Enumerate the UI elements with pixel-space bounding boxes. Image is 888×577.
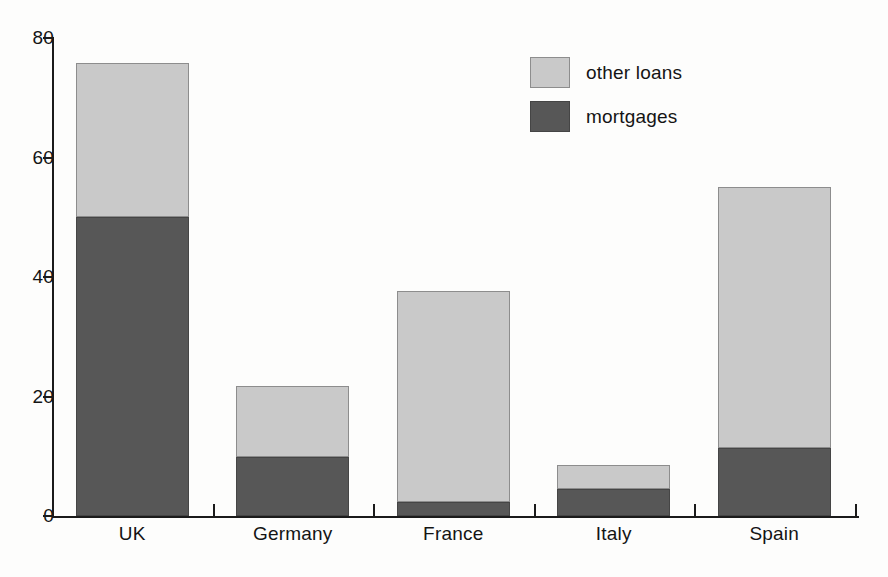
x-axis-label-germany: Germany <box>213 524 374 545</box>
legend-swatch-mortgages-icon <box>530 101 570 132</box>
bar-segment-mortgages[interactable] <box>397 502 510 516</box>
bar-spain[interactable] <box>718 187 831 516</box>
bar-segment-other-loans[interactable] <box>76 63 189 217</box>
bar-uk[interactable] <box>76 63 189 516</box>
bar-segment-mortgages[interactable] <box>76 217 189 516</box>
legend-entry-other-loans[interactable]: other loans <box>530 56 682 88</box>
bar-segment-other-loans[interactable] <box>557 465 670 489</box>
bar-italy[interactable] <box>557 465 670 516</box>
chart-legend: other loans mortgages <box>530 56 682 144</box>
x-axis-label-spain: Spain <box>694 524 855 545</box>
x-axis-label-uk: UK <box>52 524 213 545</box>
plot-area: UKGermanyFranceItalySpain <box>0 0 888 577</box>
bar-segment-mortgages[interactable] <box>557 489 670 516</box>
chart-figure: 020406080 UKGermanyFranceItalySpain othe… <box>0 0 888 577</box>
bar-segment-other-loans[interactable] <box>397 291 510 502</box>
legend-label-other-loans: other loans <box>586 63 682 82</box>
bar-segment-other-loans[interactable] <box>718 187 831 449</box>
bar-segment-mortgages[interactable] <box>718 448 831 516</box>
bar-segment-mortgages[interactable] <box>236 457 349 516</box>
x-axis-label-france: France <box>373 524 534 545</box>
legend-label-mortgages: mortgages <box>586 107 678 126</box>
x-axis-label-italy: Italy <box>534 524 695 545</box>
bar-segment-other-loans[interactable] <box>236 386 349 458</box>
legend-entry-mortgages[interactable]: mortgages <box>530 100 682 132</box>
bar-germany[interactable] <box>236 386 349 516</box>
bar-france[interactable] <box>397 291 510 516</box>
legend-swatch-other-loans-icon <box>530 57 570 88</box>
